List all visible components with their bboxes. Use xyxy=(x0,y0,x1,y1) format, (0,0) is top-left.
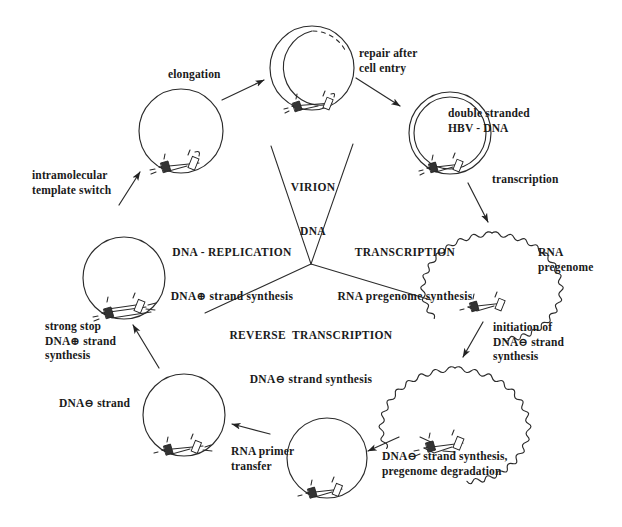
center-label-reverse-transcription: REVERSE TRANSCRIPTION DNA⊖ strand synthe… xyxy=(218,299,404,415)
label-strong-stop-dna-plus-strand-synthesis: strong stop DNA⊕ strand synthesis xyxy=(45,319,116,363)
virion-line1: VIRION xyxy=(275,180,351,195)
label-dna-minus-strand: DNA⊖ strand xyxy=(59,396,130,411)
hbv-replication-cycle-diagram: VIRION DNA DNA - REPLICATION DNA⊕ strand… xyxy=(0,0,622,527)
reverse-transcription-line2: DNA⊖ strand synthesis xyxy=(218,372,404,387)
rna-primer-transfer-circle xyxy=(143,374,225,456)
ds-hbv-polymerase-complex xyxy=(419,153,463,175)
label-initiation-of-dna-minus-strand-synthesis: initiation of DNA⊖ strand synthesis xyxy=(493,320,564,364)
replication-line1: DNA - REPLICATION xyxy=(166,245,298,260)
elongation-polymerase-complex xyxy=(150,150,200,174)
arrow-intramolecular-template-switch xyxy=(119,172,140,205)
elongation-circle xyxy=(139,89,223,173)
virion-dna-circle xyxy=(270,26,354,110)
arrow-repair-after-cell-entry xyxy=(356,78,400,106)
strong-stop-polymerase-complex xyxy=(93,293,156,321)
dna-minus-circle-bottom xyxy=(287,418,367,498)
label-rna-pregenome: RNA pregenome xyxy=(538,245,593,274)
label-double-stranded-hbv-dna: double stranded HBV - DNA xyxy=(448,106,530,135)
transcription-line1: TRANSCRIPTION xyxy=(327,245,483,260)
primer-transfer-polymerase-complex xyxy=(154,434,212,455)
bottom-polymerase-complex xyxy=(298,477,342,498)
reverse-transcription-line1: REVERSE TRANSCRIPTION xyxy=(218,328,404,343)
label-rna-primer-transfer: RNA primer transfer xyxy=(231,444,294,473)
label-elongation: elongation xyxy=(168,67,221,82)
label-repair-after-cell-entry: repair after cell entry xyxy=(359,46,418,75)
label-dna-minus-strand-synthesis-pregenome-degradation: DNA⊖ strand synthesis, pregenome degrada… xyxy=(382,449,508,478)
arrow-strong-stop xyxy=(133,325,159,368)
label-transcription-step: transcription xyxy=(492,172,558,187)
arrow-rna-primer-transfer xyxy=(232,424,270,434)
label-intramolecular-template-switch: intramolecular template switch xyxy=(32,168,111,197)
arrow-elongation xyxy=(222,80,264,100)
